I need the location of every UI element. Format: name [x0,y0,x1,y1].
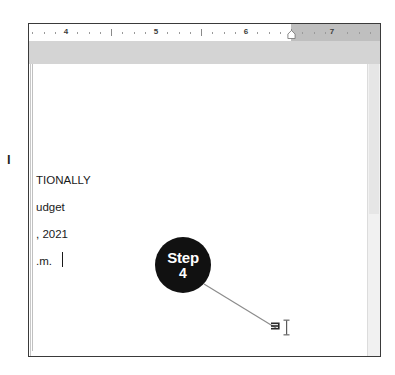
ruler-tick [347,32,348,34]
document-text-line: .m. [36,254,52,268]
ruler-right-margin-zone [291,24,380,41]
document-page[interactable]: TIONALLY udget , 2021 .m. [30,64,368,356]
document-window: 4567 TIONALLY udget , 2021 .m. [28,23,381,357]
document-text-line: , 2021 [36,227,68,241]
ruler-tick [100,32,101,34]
right-indent-marker-icon[interactable] [287,30,296,39]
horizontal-ruler[interactable]: 4567 [29,24,380,42]
i-beam-cursor-icon [282,319,291,336]
ruler-tick [325,32,326,34]
ruler-tick [122,32,123,34]
ruler-tick [55,32,56,34]
paragraph-end-mark-icon [271,322,280,331]
ruler-tick [190,32,191,34]
clipped-text-glyph: l [7,152,11,167]
ruler-tick [212,32,213,34]
ruler-tick [359,32,360,34]
ruler-tick [77,32,78,34]
ruler-number-6: 6 [244,26,248,38]
ruler-tick [44,32,45,34]
ruler-tick [280,32,281,34]
left-margin-guide [32,64,33,351]
ruler-tick [269,32,270,34]
ruler-tick [111,29,112,36]
ruler-tick [32,32,33,34]
ruler-number-7: 7 [330,26,334,38]
step-callout-label: Step [167,250,199,265]
vertical-scrollbar[interactable] [367,64,380,356]
ruler-tick [167,32,168,34]
text-insertion-caret [62,252,63,267]
ruler-tick [235,32,236,34]
document-text-line: TIONALLY [36,173,91,187]
page-gutter-band [29,41,380,64]
ruler-tick [314,32,315,34]
ruler-tick [370,32,371,34]
vertical-scrollbar-thumb[interactable] [369,64,379,214]
ruler-tick [145,32,146,34]
ruler-tick [302,32,303,34]
document-text-line: udget [36,200,65,214]
ruler-tick [257,32,258,34]
step-callout-badge: Step 4 [155,237,211,293]
step-callout-number: 4 [179,266,187,280]
ruler-tick [201,29,202,36]
ruler-tick [134,32,135,34]
ruler-number-4: 4 [64,26,68,38]
ruler-tick [89,32,90,34]
ruler-number-5: 5 [154,26,158,38]
ruler-tick [224,32,225,34]
ruler-tick [179,32,180,34]
